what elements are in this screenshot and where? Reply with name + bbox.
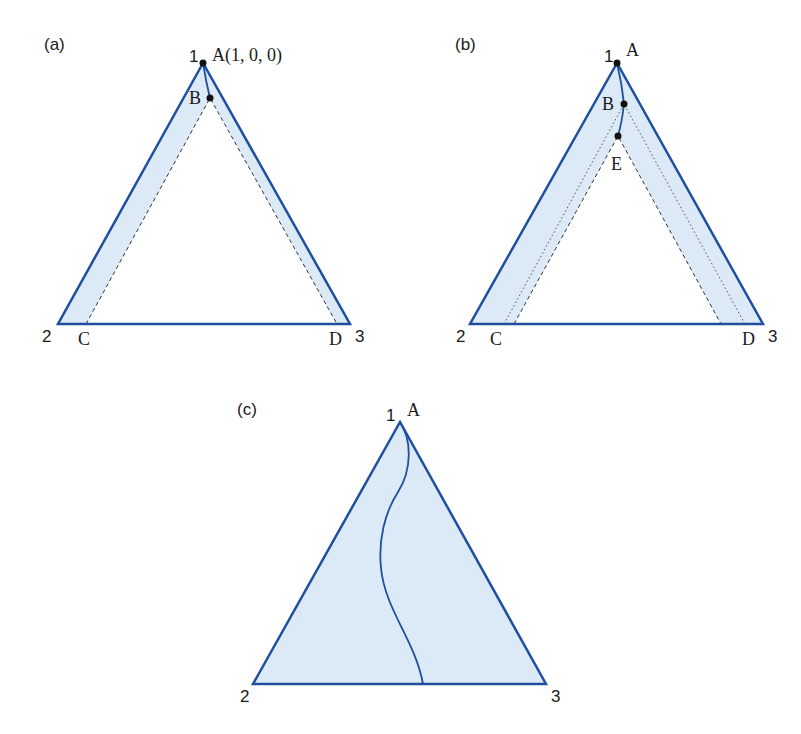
panel-a-point-B-dot — [207, 95, 214, 102]
panel-a: (a) 1 2 3 A(1, 0, 0) B C D — [42, 35, 364, 349]
panel-b-point-C-label: C — [490, 329, 502, 349]
panel-b-vertex-3: 3 — [768, 327, 777, 346]
panel-b-point-E-dot — [615, 133, 622, 140]
panel-a-point-A-label: A(1, 0, 0) — [212, 45, 282, 66]
panel-c-shaded-region — [253, 422, 546, 684]
panel-c-vertex-2: 2 — [240, 687, 249, 706]
panel-c: (c) 1 2 3 A — [237, 400, 560, 706]
panel-c-point-A-label: A — [407, 400, 420, 420]
panel-a-vertex-2: 2 — [42, 327, 51, 346]
panel-b-label: (b) — [455, 35, 476, 54]
panel-b-point-A-dot — [614, 60, 621, 67]
ternary-diagram-figure: (a) 1 2 3 A(1, 0, 0) B C D (b) 1 2 3 A B… — [0, 0, 801, 734]
panel-c-vertex-1: 1 — [386, 406, 395, 425]
panel-c-vertex-3: 3 — [551, 687, 560, 706]
panel-b-vertex-1: 1 — [604, 47, 613, 66]
panel-a-vertex-1: 1 — [189, 47, 198, 66]
panel-b-point-B-dot — [621, 101, 628, 108]
panel-b-point-A-label: A — [626, 40, 639, 60]
panel-a-vertex-3: 3 — [355, 327, 364, 346]
panel-a-label: (a) — [44, 35, 65, 54]
panel-b-point-B-label: B — [602, 94, 614, 114]
panel-a-point-C-label: C — [78, 329, 90, 349]
panel-b-point-E-label: E — [611, 154, 622, 174]
panel-a-point-B-label: B — [189, 88, 201, 108]
panel-b: (b) 1 2 3 A B E C D — [455, 35, 777, 349]
panel-a-point-D-label: D — [329, 329, 342, 349]
panel-a-point-A-dot — [200, 60, 207, 67]
panel-b-vertex-2: 2 — [456, 327, 465, 346]
panel-b-point-D-label: D — [742, 329, 755, 349]
panel-c-label: (c) — [237, 400, 257, 419]
